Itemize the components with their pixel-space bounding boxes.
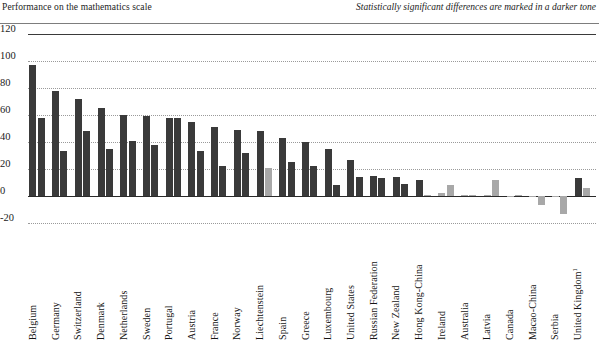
bar-group bbox=[529, 34, 552, 223]
bar bbox=[416, 180, 423, 196]
bar-group bbox=[98, 34, 121, 223]
bar bbox=[583, 188, 590, 196]
bar bbox=[538, 196, 545, 205]
bar bbox=[424, 195, 431, 196]
bar bbox=[325, 149, 332, 196]
x-tick-label: Spain bbox=[277, 317, 288, 340]
x-tick-label: Liechtenstein bbox=[254, 285, 265, 340]
bar-group bbox=[52, 34, 75, 223]
x-tick-label: France bbox=[209, 312, 220, 340]
x-tick-label: Luxembourg bbox=[322, 288, 333, 340]
header-divider bbox=[0, 23, 599, 24]
bar bbox=[143, 116, 150, 196]
mathematics-performance-chart: Performance on the mathematics scale Sta… bbox=[0, 0, 599, 342]
bar bbox=[83, 131, 90, 196]
bar-group bbox=[393, 34, 416, 223]
bar bbox=[288, 162, 295, 196]
gridline--20 bbox=[28, 223, 596, 224]
bar-group bbox=[302, 34, 325, 223]
chart-header: Performance on the mathematics scale Sta… bbox=[0, 2, 599, 18]
bar-group bbox=[575, 34, 598, 223]
x-tick-label: Germany bbox=[50, 302, 61, 340]
bar bbox=[29, 65, 36, 196]
x-tick-label: Latvia bbox=[481, 314, 492, 340]
bar-group bbox=[188, 34, 211, 223]
bar bbox=[401, 184, 408, 196]
significance-note: Statistically significant differences ar… bbox=[356, 2, 596, 12]
bar bbox=[447, 185, 454, 196]
x-tick-label: Russian Federation bbox=[368, 261, 379, 340]
bar bbox=[166, 118, 173, 196]
bar bbox=[461, 195, 468, 196]
bar bbox=[60, 151, 67, 196]
bar-group bbox=[29, 34, 52, 223]
bar bbox=[356, 177, 363, 196]
x-tick-label: Sweden bbox=[141, 308, 152, 340]
bar-group bbox=[166, 34, 189, 223]
bar-group bbox=[143, 34, 166, 223]
plot-area bbox=[28, 34, 596, 223]
bar-group bbox=[257, 34, 280, 223]
x-tick-label: Greece bbox=[300, 311, 311, 340]
x-tick-label: Austria bbox=[186, 310, 197, 340]
bar bbox=[129, 141, 136, 196]
x-tick-label: Macao-China bbox=[527, 284, 538, 340]
y-tick-label-20: 20 bbox=[0, 159, 26, 169]
bar bbox=[302, 142, 309, 196]
bar bbox=[75, 99, 82, 196]
bar bbox=[219, 166, 226, 196]
bar-group bbox=[461, 34, 484, 223]
y-tick-label-80: 80 bbox=[0, 78, 26, 88]
page-title: Performance on the mathematics scale bbox=[2, 2, 152, 12]
bar bbox=[265, 168, 272, 196]
x-axis-category-labels: BelgiumGermanySwitzerlandDenmarkNetherla… bbox=[28, 228, 596, 342]
y-tick-label-40: 40 bbox=[0, 132, 26, 142]
y-tick-label--20: -20 bbox=[0, 213, 26, 223]
bar bbox=[151, 145, 158, 196]
bar bbox=[515, 195, 522, 196]
bar bbox=[279, 138, 286, 196]
x-tick-label: United States bbox=[345, 285, 356, 340]
bar bbox=[234, 130, 241, 196]
bar-group bbox=[325, 34, 348, 223]
x-tick-label: Serbia bbox=[549, 314, 560, 340]
y-tick-label-0: 0 bbox=[0, 186, 26, 196]
x-tick-label: Canada bbox=[504, 309, 515, 340]
bar-group bbox=[211, 34, 234, 223]
bar bbox=[492, 180, 499, 196]
y-tick-label-100: 100 bbox=[0, 51, 26, 61]
x-tick-label: Hong Kong-China bbox=[413, 264, 424, 340]
bar-group bbox=[75, 34, 98, 223]
bar bbox=[507, 196, 514, 197]
bar bbox=[347, 160, 354, 196]
bar bbox=[38, 118, 45, 196]
bar bbox=[174, 118, 181, 196]
bar-group bbox=[484, 34, 507, 223]
bar bbox=[188, 122, 195, 196]
y-tick-label-120: 120 bbox=[0, 24, 26, 34]
bar bbox=[120, 115, 127, 196]
bar bbox=[197, 151, 204, 196]
bar bbox=[529, 196, 536, 197]
bar bbox=[333, 185, 340, 196]
x-tick-label: Netherlands bbox=[118, 291, 129, 340]
bar bbox=[575, 178, 582, 196]
x-tick-label: Australia bbox=[459, 302, 470, 340]
bar-group bbox=[279, 34, 302, 223]
bar bbox=[484, 195, 491, 196]
bar bbox=[438, 193, 445, 196]
y-tick-label-60: 60 bbox=[0, 105, 26, 115]
bar-group bbox=[370, 34, 393, 223]
bar-group bbox=[438, 34, 461, 223]
bar-group bbox=[347, 34, 370, 223]
bars-layer bbox=[28, 34, 596, 223]
x-tick-label: Portugal bbox=[163, 305, 174, 340]
x-tick-label: Belgium bbox=[27, 305, 38, 340]
x-tick-label: New Zealand bbox=[390, 285, 401, 340]
bar bbox=[211, 127, 218, 196]
bar-group bbox=[552, 34, 575, 223]
bar bbox=[378, 178, 385, 196]
bar-group bbox=[416, 34, 439, 223]
bar bbox=[257, 131, 264, 196]
bar bbox=[52, 91, 59, 196]
